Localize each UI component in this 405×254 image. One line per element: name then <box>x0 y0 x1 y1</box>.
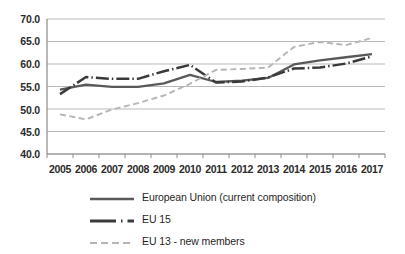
solid-line-key <box>88 191 136 203</box>
data-series-layer <box>60 38 372 119</box>
series-line-0 <box>60 54 372 90</box>
legend-item-european-union[interactable]: European Union (current composition) <box>0 186 405 208</box>
chart-legend: European Union (current composition) EU … <box>0 186 405 252</box>
dash-dot-line-key <box>88 213 136 225</box>
x-axis-tick-2017: 2017 <box>357 163 387 175</box>
legend-label-eu13: EU 13 - new members <box>142 235 245 247</box>
x-axis-ticks <box>47 154 385 158</box>
legend-item-eu13[interactable]: EU 13 - new members <box>0 230 405 252</box>
legend-item-eu15[interactable]: EU 15 <box>0 208 405 230</box>
legend-label-european-union: European Union (current composition) <box>142 191 316 203</box>
plot-area <box>0 0 405 186</box>
line-chart: 70.0 65.0 60.0 55.0 50.0 45.0 40.0 20052… <box>0 0 405 254</box>
dashed-line-key <box>88 235 136 247</box>
series-line-1 <box>60 56 372 94</box>
legend-label-eu15: EU 15 <box>142 213 171 225</box>
